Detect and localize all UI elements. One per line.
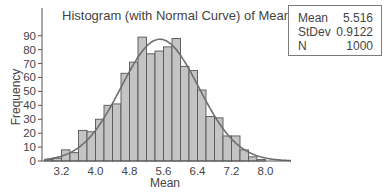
stats-label: Mean <box>298 11 328 25</box>
y-tick-label: 70 <box>23 58 36 70</box>
stats-value: 1000 <box>346 39 373 53</box>
histogram-bar <box>113 104 122 161</box>
x-tick-label: 4.0 <box>88 165 104 177</box>
stats-row-stdev: StDev 0.9122 <box>298 25 373 39</box>
y-tick-label: 40 <box>23 99 36 111</box>
stats-value: 0.9122 <box>336 25 373 39</box>
y-tick-label: 50 <box>23 85 36 97</box>
histogram-bar <box>215 118 224 161</box>
stats-label: StDev <box>298 25 331 39</box>
histogram-bar <box>164 47 173 161</box>
y-tick-label: 0 <box>30 155 36 167</box>
x-tick-label: 8.0 <box>258 165 274 177</box>
stats-label: N <box>298 39 307 53</box>
histogram-bar <box>147 54 156 161</box>
stats-row-n: N 1000 <box>298 39 373 53</box>
x-tick-label: 7.2 <box>224 165 240 177</box>
chart-title: Histogram (with Normal Curve) of Mean <box>62 8 291 23</box>
stats-value: 5.516 <box>343 11 373 25</box>
histogram-bars <box>45 37 266 161</box>
y-tick-label: 60 <box>23 71 36 83</box>
y-tick-label: 10 <box>23 141 36 153</box>
histogram-bar <box>172 39 181 161</box>
x-tick-label: 4.8 <box>122 165 138 177</box>
histogram-bar <box>155 51 164 161</box>
x-axis-label: Mean <box>150 176 180 190</box>
x-tick-label: 6.4 <box>190 165 207 177</box>
histogram-bar <box>223 136 232 161</box>
y-tick-label: 20 <box>23 127 36 139</box>
x-tick-label: 3.2 <box>54 165 70 177</box>
stats-row-mean: Mean 5.516 <box>298 11 373 25</box>
y-axis-ticks: 0102030405060708090 <box>23 30 42 167</box>
y-tick-label: 80 <box>23 44 36 56</box>
histogram-bar <box>130 62 139 161</box>
summary-stats-box: Mean 5.516 StDev 0.9122 N 1000 <box>288 5 382 56</box>
histogram-bar <box>181 66 190 161</box>
histogram-bar <box>249 157 258 161</box>
y-tick-label: 90 <box>23 30 36 42</box>
y-axis-label: Frequency <box>9 67 23 127</box>
histogram-bar <box>70 153 79 161</box>
histogram-bar <box>198 90 207 161</box>
histogram-bar <box>206 116 215 161</box>
histogram-bar <box>104 105 113 161</box>
y-tick-label: 30 <box>23 113 36 125</box>
